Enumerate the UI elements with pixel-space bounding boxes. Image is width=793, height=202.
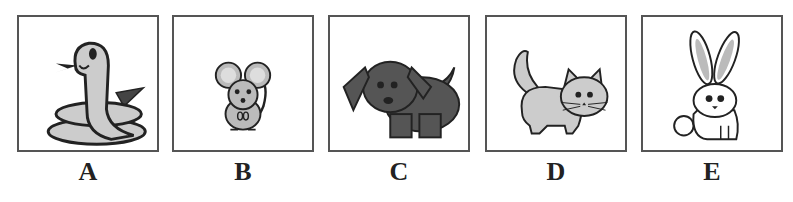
rabbit-icon (643, 17, 781, 150)
option-c-label: C (328, 157, 470, 187)
cat-icon (487, 17, 625, 150)
option-b-label: B (172, 157, 314, 187)
option-d-label: D (485, 157, 627, 187)
option-d-panel[interactable] (485, 15, 627, 152)
option-b-panel[interactable] (172, 15, 314, 152)
option-e-panel[interactable] (641, 15, 783, 152)
option-a-panel[interactable] (17, 15, 159, 152)
option-c-panel[interactable] (328, 15, 470, 152)
option-e-label: E (641, 157, 783, 187)
snake-icon (19, 17, 157, 150)
mouse-icon (174, 17, 312, 150)
dog-icon (330, 17, 468, 150)
option-a-label: A (17, 157, 159, 187)
